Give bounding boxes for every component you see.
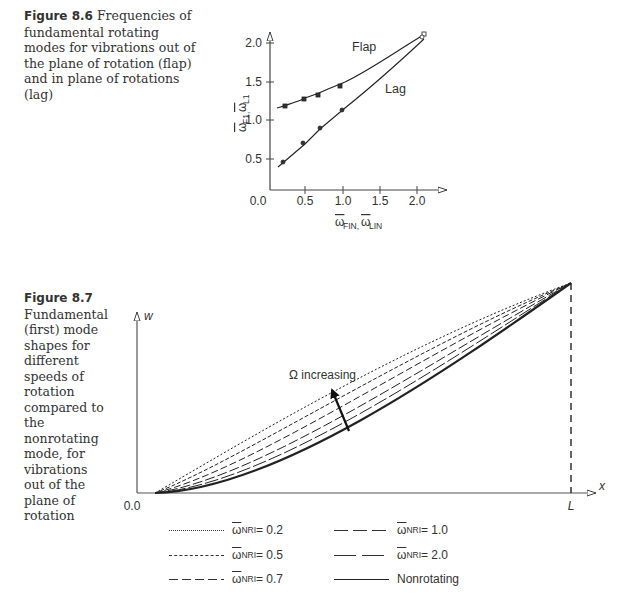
chart-8-6: 2.0 1.5 1.0 0.5 0.0 0.5 1.0 1.5 2.0 ω FI… [235,32,447,231]
dotted-line-icon [169,530,224,531]
svg-text:1.5: 1.5 [372,194,389,208]
svg-text:1.5: 1.5 [245,75,262,89]
svg-text:0.5: 0.5 [245,152,262,166]
medium-dash-line-icon [169,579,224,580]
figures-canvas: 2.0 1.5 1.0 0.5 0.0 0.5 1.0 1.5 2.0 ω FI… [0,0,621,605]
legend-item-2-0: ωNRI = 2.0 [334,547,448,563]
lag-label: Lag [385,82,406,96]
svg-text:LIN: LIN [369,221,382,231]
flap-curve [277,34,425,108]
x-axis-label: ω FIN, ω LIN [335,215,382,231]
svg-text:FIN,: FIN, [343,221,359,231]
origin-label: 0.0 [124,499,141,513]
flap-label: Flap [352,40,376,54]
legend-item-0-5: ωNRI = 0.5 [169,547,283,563]
omega-increasing-label: Ω increasing [289,368,356,382]
x-axis-label: x [598,479,606,493]
svg-text:2.0: 2.0 [245,36,262,50]
curve-0-7 [155,283,571,493]
legend-item-0-2: ωNRI = 0.2 [169,522,283,538]
x-tick-labels: 0.0 0.5 1.0 1.5 2.0 [250,194,426,208]
svg-text:0.5: 0.5 [297,194,314,208]
svg-text:1.0: 1.0 [335,194,352,208]
legend-item-nonrotating: Nonrotating [334,571,459,587]
longer-dash-line-icon [334,555,389,556]
mode-curves [155,283,571,493]
solid-line-icon [334,579,389,580]
long-dash-line-icon [334,530,389,531]
w-axis-label: w [144,309,154,323]
legend-item-0-7: ωNRI = 0.7 [169,571,283,587]
svg-text:0.0: 0.0 [250,194,267,208]
legend-item-1-0: ωNRI = 1.0 [334,522,448,538]
svg-text:2.0: 2.0 [409,194,426,208]
svg-text:L1: L1 [241,94,251,104]
svg-text:F1,: F1, [241,112,251,124]
short-dash-line-icon [169,555,224,556]
y-axis-label: ω F1, ω L1 [235,94,251,132]
x-end-label: L [568,499,575,513]
lag-curve [278,39,424,167]
chart-8-7: w x 0.0 L Ω increasing [124,283,606,513]
